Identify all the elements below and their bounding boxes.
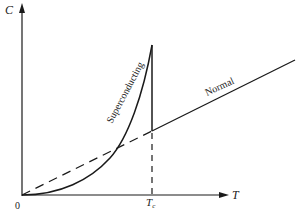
y-axis-label: C (5, 3, 14, 17)
normal-extrapolation-dashed (22, 131, 152, 195)
normal-curve (152, 60, 295, 131)
tc-label: Tc (146, 196, 156, 210)
superconducting-label: Superconducting (104, 60, 146, 125)
heat-capacity-diagram: C T 0 Tc Superconducting Normal (0, 0, 301, 211)
y-axis-arrow-icon (19, 3, 25, 13)
x-axis-arrow-icon (219, 192, 229, 198)
origin-label: 0 (15, 200, 20, 211)
normal-label: Normal (203, 75, 236, 98)
x-axis-label: T (232, 188, 240, 202)
